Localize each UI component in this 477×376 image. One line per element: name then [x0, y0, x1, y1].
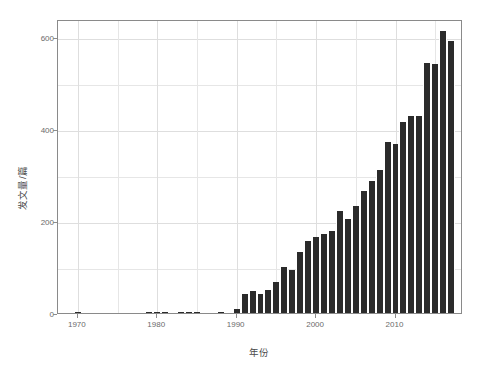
gridline-vertical	[237, 21, 238, 313]
y-axis-title-text: 发文量/篇	[15, 166, 29, 211]
bar	[177, 312, 185, 313]
bar	[249, 291, 257, 313]
bar	[352, 206, 360, 313]
bar	[217, 312, 225, 313]
gridline-vertical	[78, 21, 79, 313]
bar	[399, 122, 407, 313]
y-axis-tick-label: 400	[41, 126, 54, 135]
bar	[145, 312, 153, 313]
bar	[312, 237, 320, 313]
x-axis-tick-label: 2000	[306, 320, 324, 329]
bar	[447, 41, 455, 313]
x-axis-tick-mark	[236, 314, 237, 318]
x-axis-tick-label: 1980	[147, 320, 165, 329]
bar	[153, 312, 161, 313]
y-axis-tick-label: 200	[41, 218, 54, 227]
bar	[376, 170, 384, 313]
plot-panel	[57, 20, 462, 314]
chart-container: 发文量/篇 年份 0200400600 19701980199020002010	[0, 0, 477, 376]
bar	[344, 219, 352, 313]
x-axis-tick-label: 1990	[227, 320, 245, 329]
bar	[407, 116, 415, 313]
x-axis-tick-mark	[315, 314, 316, 318]
bar	[272, 282, 280, 313]
bar	[384, 142, 392, 313]
bar	[368, 181, 376, 313]
bar	[185, 312, 193, 313]
bar	[304, 241, 312, 313]
y-axis-title: 发文量/篇	[10, 0, 34, 376]
bar	[288, 270, 296, 313]
bar	[257, 294, 265, 313]
x-axis-tick-label: 1970	[68, 320, 86, 329]
x-axis-tick-mark	[156, 314, 157, 318]
x-axis-tick-mark	[77, 314, 78, 318]
x-axis-tick-label: 2010	[386, 320, 404, 329]
bar	[233, 309, 241, 313]
bar	[415, 116, 423, 313]
y-axis-tick-label: 600	[41, 34, 54, 43]
bar	[328, 231, 336, 313]
bar	[336, 211, 344, 313]
gridline-vertical-minor	[276, 21, 277, 313]
x-axis-title: 年份	[57, 345, 462, 359]
bar	[161, 312, 169, 313]
bar	[320, 234, 328, 313]
bar	[392, 144, 400, 314]
x-axis-tick-mark	[395, 314, 396, 318]
bar	[280, 267, 288, 313]
y-axis-tick-mark	[53, 314, 57, 315]
bar	[193, 312, 201, 313]
bar	[439, 31, 447, 313]
bar	[296, 252, 304, 313]
bar	[264, 290, 272, 313]
gridline-vertical	[157, 21, 158, 313]
gridline-vertical-minor	[118, 21, 119, 313]
bar	[431, 64, 439, 313]
bar	[360, 191, 368, 313]
gridline-vertical-minor	[197, 21, 198, 313]
bar	[74, 312, 82, 313]
bar	[423, 63, 431, 313]
bar	[241, 294, 249, 313]
